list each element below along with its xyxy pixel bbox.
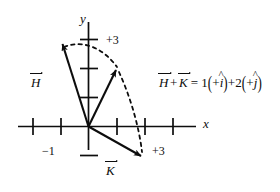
equation-open-paren-i: ( [208, 73, 212, 92]
equation-plus-sign: + [169, 75, 179, 90]
equation-j-coefficient: 2 [235, 75, 242, 90]
equation-open-paren-j: ( [242, 73, 246, 92]
x-tick-label-minus1: −1 [42, 145, 55, 157]
equation-close-paren-j: ) [257, 73, 261, 92]
y-axis-label: y [80, 12, 86, 25]
vector-k-label: K [106, 164, 115, 177]
vector-addition-figure: y x +3 −1 +3 H K H+K=1(+i)+2(+j) [0, 0, 280, 192]
vector-h-arrow [63, 44, 89, 127]
vector-k-arrow [89, 127, 142, 157]
x-axis-label: x [203, 117, 209, 130]
equation-i-coefficient: 1 [201, 75, 208, 90]
equation-equals-sign: = [188, 75, 201, 90]
vector-h-label: H [31, 76, 40, 89]
x-tick-label-plus3: +3 [152, 145, 165, 157]
resultant-equation: H+K=1(+i)+2(+j) [159, 76, 262, 89]
vector-k-label-text: K [106, 164, 115, 177]
equation-h-term: H [159, 76, 169, 89]
y-tick-label-plus3: +3 [106, 34, 119, 46]
equation-close-paren-i: ) [223, 73, 227, 92]
vector-h-label-text: H [31, 76, 40, 89]
diagram-canvas [0, 0, 280, 192]
equation-k-term: K [179, 76, 188, 89]
